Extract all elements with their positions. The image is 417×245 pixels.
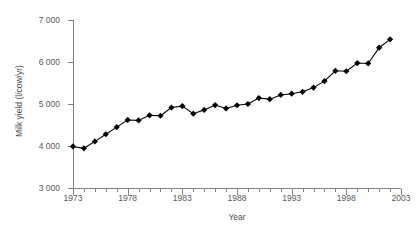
data-point-marker <box>168 104 174 110</box>
x-tick-label: 1973 <box>53 194 93 203</box>
x-tick-minor <box>314 189 315 192</box>
y-tick <box>68 20 73 21</box>
data-point-marker <box>245 101 251 107</box>
x-tick-label: 2003 <box>381 194 417 203</box>
data-point-marker <box>223 105 229 111</box>
data-point-marker <box>81 145 87 151</box>
x-tick-minor <box>150 189 151 192</box>
data-point-marker <box>310 85 316 91</box>
y-tick <box>68 146 73 147</box>
data-point-marker <box>321 78 327 84</box>
x-tick-minor <box>324 189 325 192</box>
x-tick-minor <box>106 189 107 192</box>
data-point-marker <box>114 124 120 130</box>
x-tick-minor <box>193 189 194 192</box>
data-point-marker <box>365 60 371 66</box>
y-tick <box>68 104 73 105</box>
y-axis-title: Milk yield (l/cow/yr) <box>14 41 24 161</box>
y-tick-label: 7 000 <box>22 16 60 24</box>
y-tick <box>68 62 73 63</box>
data-point-marker <box>125 117 131 123</box>
y-tick-label: 3 000 <box>22 184 60 192</box>
data-point-marker <box>289 91 295 97</box>
data-point-marker <box>136 117 142 123</box>
y-tick-label: 5 000 <box>22 100 60 108</box>
x-tick-minor <box>259 189 260 192</box>
data-point-marker <box>190 111 196 117</box>
data-point-marker <box>256 95 262 101</box>
data-point-marker <box>354 60 360 66</box>
data-point-marker <box>234 102 240 108</box>
milk-yield-line-chart: 3 0004 0005 0006 0007 000 19731978198319… <box>0 0 417 245</box>
data-point-marker <box>201 107 207 113</box>
x-tick-minor <box>215 189 216 192</box>
x-tick-minor <box>139 189 140 192</box>
x-tick-minor <box>248 189 249 192</box>
x-tick-minor <box>171 189 172 192</box>
x-axis-title: Year <box>73 212 401 222</box>
data-point-marker <box>267 96 273 102</box>
data-point-marker <box>179 103 185 109</box>
data-point-marker <box>332 68 338 74</box>
x-tick-label: 1993 <box>272 194 312 203</box>
x-tick-minor <box>357 189 358 192</box>
series-markers-milk-yield <box>70 36 393 151</box>
x-tick-minor <box>270 189 271 192</box>
x-tick-label: 1983 <box>162 194 202 203</box>
data-point-marker <box>300 89 306 95</box>
data-point-marker <box>92 138 98 144</box>
x-tick-minor <box>303 189 304 192</box>
x-tick-label: 1988 <box>217 194 257 203</box>
data-point-marker <box>376 45 382 51</box>
x-tick-minor <box>335 189 336 192</box>
x-tick-label: 1998 <box>326 194 366 203</box>
x-tick-minor <box>95 189 96 192</box>
data-point-marker <box>146 112 152 118</box>
x-tick-minor <box>84 189 85 192</box>
x-tick-minor <box>281 189 282 192</box>
data-point-marker <box>387 36 393 42</box>
series-line-milk-yield <box>73 39 390 148</box>
x-tick-minor <box>226 189 227 192</box>
x-tick-minor <box>368 189 369 192</box>
x-tick-label: 1978 <box>108 194 148 203</box>
y-tick-label: 4 000 <box>22 142 60 150</box>
data-point-marker <box>212 102 218 108</box>
x-tick-minor <box>117 189 118 192</box>
data-point-marker <box>343 68 349 74</box>
data-point-marker <box>157 113 163 119</box>
x-tick-minor <box>204 189 205 192</box>
data-point-marker <box>103 131 109 137</box>
x-tick-minor <box>379 189 380 192</box>
x-tick-minor <box>160 189 161 192</box>
plot-area <box>0 0 417 245</box>
data-point-marker <box>278 92 284 98</box>
x-tick-minor <box>390 189 391 192</box>
y-tick-label: 6 000 <box>22 58 60 66</box>
y-axis-line <box>73 20 74 188</box>
